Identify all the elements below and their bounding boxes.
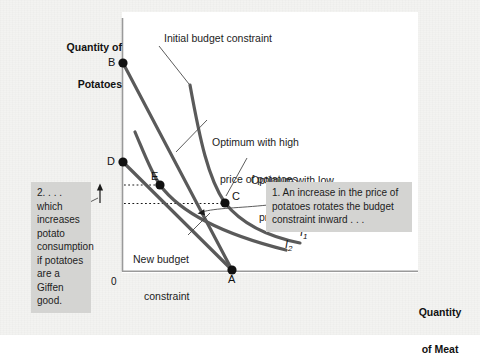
callout-price-increase: 1. An increase in the price of potatoes … (266, 182, 412, 232)
curve-label-I1-sub: 1 (303, 232, 307, 241)
point-label-D: D (107, 155, 115, 168)
annotation-new-budget-constraint-line2: constraint (133, 290, 190, 302)
curve-label-I2: I2 (285, 238, 293, 254)
annotation-new-budget-constraint-line1: New budget (133, 253, 190, 265)
x-axis-title-line2: of Meat (404, 343, 476, 355)
point-label-E: E (151, 170, 158, 183)
curve-label-I2-sub: 2 (288, 244, 292, 253)
point-label-A: A (228, 273, 235, 286)
x-axis-title: Quantity of Meat (404, 281, 476, 357)
point-label-B: B (108, 56, 115, 69)
y-axis-title-line2: Potatoes (58, 78, 122, 90)
callout-giffen-good: 2. . . . which increases potato consumpt… (31, 182, 91, 313)
increase-arrow-head (97, 184, 103, 191)
annotation-initial-budget-constraint: Initial budget constraint (164, 32, 272, 44)
point-marker-D (118, 157, 127, 166)
annotation-new-budget-constraint: New budget constraint (133, 228, 190, 327)
x-axis-title-line1: Quantity (404, 306, 476, 318)
y-axis-title-line1: Quantity of (58, 41, 122, 53)
origin-label: 0 (111, 276, 117, 288)
annotation-optimum-high-price-line1: Optimum with high (212, 136, 299, 148)
